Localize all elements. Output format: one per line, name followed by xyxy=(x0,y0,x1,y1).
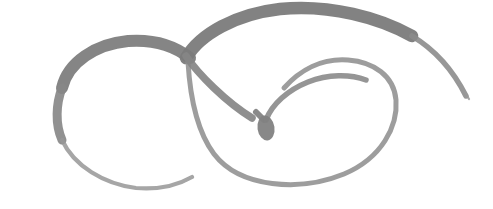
drawing-canvas xyxy=(0,0,493,209)
line-drawing-svg xyxy=(0,0,493,209)
stroke-left-loop-left xyxy=(57,88,62,140)
